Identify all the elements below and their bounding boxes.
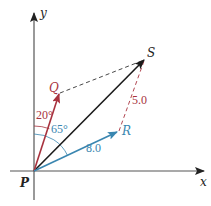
angle-65-label: 65° bbox=[51, 122, 68, 136]
vector-r bbox=[34, 132, 117, 171]
angle-20-label: 20° bbox=[36, 108, 53, 122]
vector-r-label: R bbox=[121, 124, 131, 138]
vector-q-label: Q bbox=[49, 81, 59, 95]
origin-label-p: P bbox=[19, 176, 30, 190]
vector-s-label: S bbox=[147, 46, 155, 60]
y-axis-label: y bbox=[39, 6, 47, 20]
x-axis-label: x bbox=[200, 175, 207, 189]
magnitude-rs-label: 5.0 bbox=[132, 93, 147, 107]
vector-diagram: y x P Q S R 20° 65° 8.0 5.0 bbox=[0, 0, 211, 206]
magnitude-r-label: 8.0 bbox=[86, 141, 101, 155]
dashed-q-to-s bbox=[60, 60, 144, 93]
angle-arc-65 bbox=[34, 134, 68, 155]
axes bbox=[10, 13, 204, 200]
